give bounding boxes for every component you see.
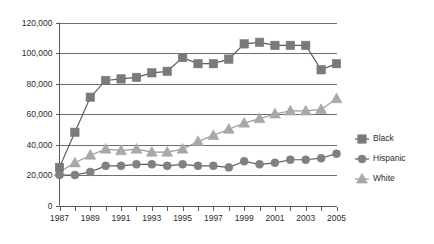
legend-label-black: Black	[373, 133, 395, 143]
data-point-hispanic-2002	[286, 156, 294, 164]
y-axis-label-20000: 20,000	[27, 170, 53, 180]
x-axis-label-1997: 1997	[204, 213, 223, 223]
data-point-white-1995	[177, 143, 188, 153]
legend-item-black[interactable]: Black	[355, 133, 395, 143]
y-tick-labels-group: 020,00040,00060,00080,000100,000120,000	[22, 18, 53, 211]
x-axis-group	[60, 207, 338, 211]
data-point-hispanic-2000	[256, 160, 264, 168]
data-point-black-2002	[286, 41, 294, 49]
x-axis-label-1993: 1993	[142, 213, 161, 223]
data-point-black-1994	[163, 67, 171, 75]
x-axis-label-1999: 1999	[235, 213, 254, 223]
data-point-hispanic-2001	[271, 159, 279, 167]
data-point-hispanic-1991	[117, 162, 125, 170]
y-axis-label-80000: 80,000	[27, 79, 53, 89]
data-point-hispanic-1990	[102, 162, 110, 170]
data-point-black-1991	[117, 75, 125, 83]
data-point-black-1996	[194, 59, 202, 67]
data-point-white-1989	[85, 150, 96, 160]
x-axis-label-1991: 1991	[112, 213, 131, 223]
legend-marker-white	[357, 173, 368, 183]
legend-marker-hispanic	[358, 155, 366, 163]
data-point-black-1988	[71, 128, 79, 136]
data-point-white-1990	[100, 143, 111, 153]
data-point-hispanic-1995	[179, 160, 187, 168]
data-point-black-2003	[302, 41, 310, 49]
legend: BlackHispanicWhite	[355, 133, 406, 183]
series-group	[54, 38, 342, 179]
x-axis-label-1989: 1989	[81, 213, 100, 223]
x-tick-labels-group: 1987198919911993199519971999200120032005	[50, 213, 346, 223]
y-axis-label-100000: 100,000	[22, 48, 53, 58]
data-point-white-1998	[223, 124, 234, 134]
data-point-white-1997	[208, 130, 219, 140]
y-axis-label-60000: 60,000	[27, 109, 53, 119]
data-point-hispanic-1998	[225, 163, 233, 171]
data-point-hispanic-1996	[194, 162, 202, 170]
data-point-white-1992	[131, 143, 142, 153]
data-point-hispanic-1989	[86, 168, 94, 176]
data-point-hispanic-2003	[302, 156, 310, 164]
data-point-black-1987	[55, 163, 63, 171]
data-point-hispanic-1987	[56, 171, 64, 179]
legend-item-hispanic[interactable]: Hispanic	[355, 153, 406, 163]
x-axis-label-2001: 2001	[265, 213, 284, 223]
data-point-black-2005	[332, 59, 340, 67]
x-axis-label-1995: 1995	[173, 213, 192, 223]
legend-marker-black	[358, 135, 366, 143]
data-point-hispanic-1993	[148, 160, 156, 168]
data-point-black-1992	[132, 73, 140, 81]
series-hispanic	[56, 150, 341, 179]
x-axis-label-1987: 1987	[50, 213, 69, 223]
data-point-hispanic-1992	[132, 160, 140, 168]
x-axis-label-2005: 2005	[327, 213, 346, 223]
data-point-black-1989	[86, 93, 94, 101]
data-point-white-2004	[316, 104, 327, 114]
data-point-hispanic-2004	[317, 154, 325, 162]
data-point-hispanic-2005	[333, 150, 341, 158]
data-point-white-2002	[285, 105, 296, 115]
legend-label-hispanic: Hispanic	[373, 153, 406, 163]
data-point-hispanic-1997	[209, 162, 217, 170]
y-axis-label-0: 0	[48, 201, 53, 211]
legend-label-white: White	[373, 173, 395, 183]
data-point-black-2004	[317, 66, 325, 74]
y-axis-label-40000: 40,000	[27, 140, 53, 150]
data-point-white-2005	[331, 93, 342, 103]
data-point-black-1998	[225, 55, 233, 63]
data-point-hispanic-1999	[240, 157, 248, 165]
data-point-black-1999	[240, 40, 248, 48]
x-axis-label-2003: 2003	[296, 213, 315, 223]
data-point-black-1993	[148, 69, 156, 77]
y-axis-label-120000: 120,000	[22, 18, 53, 28]
data-point-white-1988	[69, 157, 80, 167]
data-point-black-1997	[209, 59, 217, 67]
data-point-black-2001	[271, 41, 279, 49]
data-point-hispanic-1988	[71, 171, 79, 179]
legend-item-white[interactable]: White	[355, 173, 395, 183]
data-point-black-1990	[101, 76, 109, 84]
data-point-black-2000	[255, 38, 263, 46]
line-chart: 020,00040,00060,00080,000100,000120,000 …	[0, 0, 434, 244]
data-point-hispanic-1994	[163, 162, 171, 170]
chart-container: 020,00040,00060,00080,000100,000120,000 …	[0, 0, 434, 244]
data-point-black-1995	[178, 53, 186, 61]
data-point-white-1996	[193, 136, 204, 146]
